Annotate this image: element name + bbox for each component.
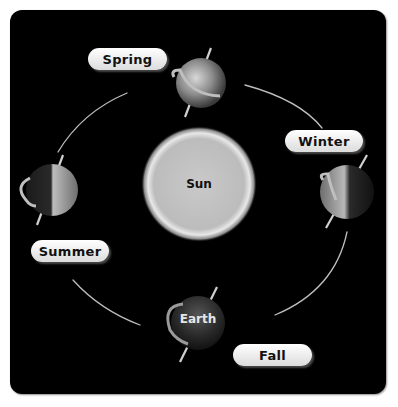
- season-label-winter: Winter: [285, 130, 363, 152]
- diagram-panel: Sun Earth Spring Winter Summer Fall: [10, 10, 386, 394]
- season-label-summer: Summer: [31, 240, 109, 262]
- earth-label: Earth: [180, 312, 217, 326]
- orbit-scene: [10, 10, 386, 394]
- earth-spring-icon: [173, 48, 226, 117]
- season-label-spring: Spring: [88, 48, 167, 70]
- season-label-fall: Fall: [233, 344, 312, 366]
- sun-label: Sun: [186, 177, 212, 191]
- earth-winter-icon: [320, 155, 374, 228]
- earth-summer-icon: [21, 155, 78, 225]
